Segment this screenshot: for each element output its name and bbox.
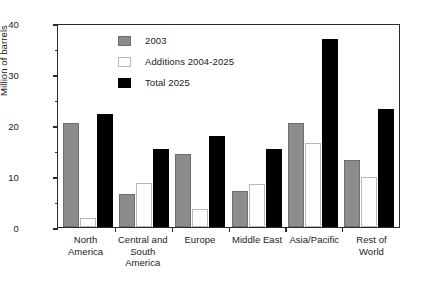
legend-swatch-2003	[118, 36, 131, 46]
bar	[378, 109, 394, 227]
x-axis-label-line: Rest of	[343, 234, 400, 246]
x-axis-label-line: World	[343, 246, 400, 258]
y-axis-minor-tick-mark	[55, 101, 59, 102]
y-axis-tick-label: 0	[0, 223, 19, 234]
bar	[209, 136, 225, 227]
x-axis-label-line: Asia/Pacific	[286, 234, 343, 246]
x-axis-tick-mark	[285, 227, 286, 232]
bar-group	[341, 25, 397, 227]
bar	[136, 183, 152, 227]
bar-group	[285, 25, 341, 227]
x-axis-label-line: Europe	[171, 234, 228, 246]
y-axis-tick-mark	[53, 177, 58, 178]
bar	[192, 209, 208, 227]
x-axis-label: Middle East	[229, 234, 286, 269]
y-axis-tick-mark	[53, 75, 58, 76]
bar-group	[60, 25, 116, 227]
bar	[305, 143, 321, 227]
legend-swatch-additions	[118, 57, 131, 67]
bar	[119, 194, 135, 227]
legend-item-2003: 2003	[118, 30, 234, 51]
x-axis-label: Europe	[171, 234, 228, 269]
bar	[288, 123, 304, 227]
bar	[344, 160, 360, 227]
bar	[175, 154, 191, 227]
y-axis-minor-tick-mark	[55, 152, 59, 153]
x-axis-label: NorthAmerica	[57, 234, 114, 269]
legend-label-total: Total 2025	[145, 77, 190, 88]
x-axis-label-line: Central and	[114, 234, 171, 246]
bar	[97, 114, 113, 227]
x-axis-label-line: North	[57, 234, 114, 246]
legend: 2003 Additions 2004-2025 Total 2025	[118, 30, 234, 93]
y-axis-tick-label: 20	[0, 121, 19, 132]
y-axis-minor-tick-mark	[55, 50, 59, 51]
x-axis-tick-mark	[342, 227, 343, 232]
y-axis-tick-label: 10	[0, 172, 19, 183]
y-axis-tick-label: 40	[0, 19, 19, 30]
bar	[249, 184, 265, 227]
x-axis-tick-mark	[229, 227, 230, 232]
legend-label-2003: 2003	[145, 35, 167, 46]
bar	[153, 149, 169, 227]
x-axis-label-line: America	[57, 246, 114, 258]
x-axis-label: Central andSouthAmerica	[114, 234, 171, 269]
bar-chart: Million of barrels NorthAmericaCentral a…	[0, 0, 422, 286]
x-axis-label-line: Middle East	[229, 234, 286, 246]
x-axis-label-line: South	[114, 246, 171, 258]
y-axis-tick-mark	[53, 24, 58, 25]
bar	[232, 191, 248, 227]
y-axis-minor-tick-mark	[55, 203, 59, 204]
bar	[80, 218, 96, 227]
bar	[361, 177, 377, 227]
x-axis-tick-mark	[172, 227, 173, 232]
bar	[63, 123, 79, 227]
y-axis-title: Million of barrels	[0, 0, 9, 96]
x-axis-tick-mark	[115, 227, 116, 232]
x-axis-label: Rest ofWorld	[343, 234, 400, 269]
x-axis-label: Asia/Pacific	[286, 234, 343, 269]
legend-label-additions: Additions 2004-2025	[145, 56, 234, 67]
x-axis-labels: NorthAmericaCentral andSouthAmericaEurop…	[57, 234, 400, 269]
bar-group	[229, 25, 285, 227]
legend-item-additions: Additions 2004-2025	[118, 51, 234, 72]
x-axis-label-line: America	[114, 257, 171, 269]
bar	[266, 149, 282, 227]
y-axis-tick-label: 30	[0, 70, 19, 81]
legend-swatch-total	[118, 78, 131, 88]
bar	[322, 39, 338, 227]
y-axis-tick-mark	[53, 126, 58, 127]
y-axis-tick-mark	[53, 228, 58, 229]
legend-item-total: Total 2025	[118, 72, 234, 93]
